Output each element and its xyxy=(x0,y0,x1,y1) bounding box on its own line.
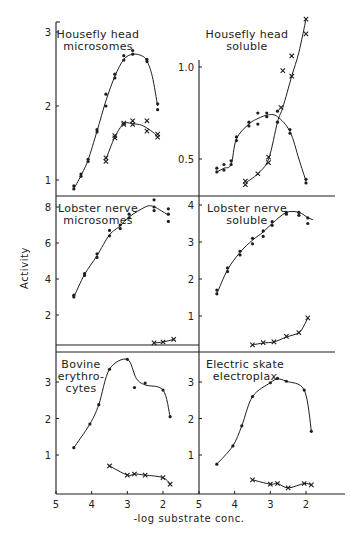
data-point-dot xyxy=(304,181,307,184)
y-tick-label: 0.5 xyxy=(178,154,194,165)
data-point-dot xyxy=(126,358,129,361)
data-point-dot xyxy=(156,102,159,105)
panel-title: electroplax xyxy=(213,370,278,383)
data-point-cross xyxy=(155,132,159,136)
fit-curve xyxy=(110,466,171,484)
panel-title: soluble xyxy=(226,214,267,227)
fit-curve xyxy=(253,480,312,488)
data-point-dot xyxy=(215,289,218,292)
data-point-dot xyxy=(240,424,243,427)
data-point-dot xyxy=(161,388,164,391)
data-point-dot xyxy=(128,216,131,219)
data-point-dot xyxy=(72,294,75,297)
panel-top-right: 0.51.0Housefly headsoluble xyxy=(178,17,308,187)
y-tick-label: 4 xyxy=(188,200,194,211)
data-point-dot xyxy=(72,446,75,449)
data-point-cross xyxy=(168,482,172,486)
y-tick-label: 4 xyxy=(45,274,51,285)
data-point-dot xyxy=(131,49,134,52)
y-tick-label: 1 xyxy=(45,175,51,186)
y-tick-label: 1 xyxy=(188,450,194,461)
data-point-dot xyxy=(310,430,313,433)
series-crosses xyxy=(250,316,310,347)
data-point-dot xyxy=(119,223,122,226)
x-tick-label: 3 xyxy=(124,499,130,510)
y-tick-label: 8 xyxy=(45,202,51,213)
y-tick-label: 3 xyxy=(188,377,194,388)
fit-curve xyxy=(217,115,306,182)
series-crosses xyxy=(152,337,176,345)
panel-title: soluble xyxy=(226,40,267,53)
x-tick-label: 5 xyxy=(53,499,59,510)
y-tick-label: 2 xyxy=(45,101,51,112)
data-point-cross xyxy=(107,464,111,468)
data-point-cross xyxy=(256,172,260,176)
panel-middle-left: 2468Lobster nervemicrosomes xyxy=(45,198,176,345)
data-point-dot xyxy=(133,386,136,389)
data-point-cross xyxy=(145,119,149,123)
data-point-dot xyxy=(79,172,82,175)
data-point-dot xyxy=(104,93,107,96)
data-point-dot xyxy=(306,216,309,219)
data-point-dot xyxy=(167,213,170,216)
data-point-dot xyxy=(271,224,274,227)
data-point-dot xyxy=(152,198,155,201)
data-point-dot xyxy=(108,229,111,232)
data-point-dot xyxy=(152,209,155,212)
data-point-dot xyxy=(304,178,307,181)
data-point-cross xyxy=(281,68,285,72)
data-point-dot xyxy=(256,122,259,125)
data-point-dot xyxy=(238,250,241,253)
data-point-dot xyxy=(108,234,111,237)
figure-frame xyxy=(56,22,345,494)
data-point-cross xyxy=(309,483,313,487)
y-tick-label: 2 xyxy=(188,274,194,285)
data-point-dot xyxy=(247,124,250,127)
data-point-dot xyxy=(95,256,98,259)
data-point-dot xyxy=(262,235,265,238)
panel-top-left: 123Housefly headmicrosomes xyxy=(45,27,160,190)
data-point-dot xyxy=(251,237,254,240)
data-point-dot xyxy=(269,381,272,384)
x-tick-label: 2 xyxy=(160,499,166,510)
data-point-dot xyxy=(285,211,288,214)
data-point-dot xyxy=(222,168,225,171)
data-point-dot xyxy=(288,128,291,131)
data-point-dot xyxy=(297,211,300,214)
series-crosses xyxy=(250,478,313,490)
data-point-dot xyxy=(226,270,229,273)
data-point-cross xyxy=(290,54,294,58)
data-point-dot xyxy=(297,214,300,217)
panel-middle-right: 1234Lobster nervesoluble xyxy=(188,200,313,347)
data-point-dot xyxy=(97,403,100,406)
fit-curve xyxy=(217,379,312,464)
data-point-dot xyxy=(288,132,291,135)
y-tick-label: 1 xyxy=(188,311,194,322)
data-point-cross xyxy=(145,129,149,133)
data-point-cross xyxy=(306,316,310,320)
data-point-dot xyxy=(247,121,250,124)
data-point-dot xyxy=(113,76,116,79)
x-tick-label: 3 xyxy=(267,499,273,510)
x-axis-label: -log substrate conc. xyxy=(133,513,244,524)
data-point-dot xyxy=(152,205,155,208)
data-point-dot xyxy=(95,252,98,255)
data-point-dot xyxy=(72,184,75,187)
data-point-dot xyxy=(145,58,148,61)
data-point-cross xyxy=(104,156,108,160)
figure-canvas: 123Housefly headmicrosomes0.51.0Housefly… xyxy=(0,0,350,536)
y-tick-label: 2 xyxy=(188,414,194,425)
data-point-dot xyxy=(108,368,111,371)
series-dots xyxy=(215,110,307,185)
data-point-dot xyxy=(128,213,131,216)
data-point-dot xyxy=(88,422,91,425)
y-tick-label: 1 xyxy=(45,450,51,461)
data-point-dot xyxy=(167,207,170,210)
data-point-dot xyxy=(83,272,86,275)
data-point-dot xyxy=(238,253,241,256)
panel-title: cytes xyxy=(66,382,97,395)
data-point-dot xyxy=(144,381,147,384)
y-tick-label: 3 xyxy=(45,377,51,388)
data-point-dot xyxy=(230,159,233,162)
data-point-cross xyxy=(304,32,308,36)
